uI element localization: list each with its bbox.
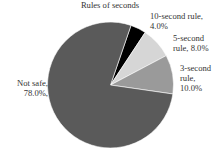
- label-10-second-rule: 10-second rule, 4.0%: [150, 11, 203, 31]
- label-3-second-rule: 3-second rule, 10.0%: [180, 63, 211, 93]
- label-not-safe: Not safe, 78.0%,: [8, 78, 48, 98]
- label-5-second-rule: 5-second rule, 8.0%: [173, 33, 209, 53]
